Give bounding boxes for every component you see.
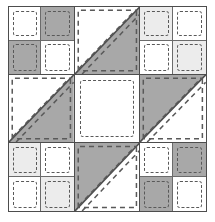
quilt-cell-top-left <box>9 7 75 75</box>
half-square-triangle-middle-right <box>140 75 206 142</box>
patch-top-right <box>41 143 73 177</box>
quilt-block-grid <box>8 6 207 212</box>
four-patch-bottom-left <box>9 143 74 211</box>
patch-top-right <box>41 7 73 41</box>
patch-top-right <box>173 7 206 41</box>
patch-top-right <box>173 143 206 177</box>
stitch-line <box>45 44 70 71</box>
patch-bottom-right <box>173 177 206 211</box>
half-square-triangle-bottom-center <box>75 143 140 211</box>
patch-top-left <box>9 7 41 41</box>
stitch-line <box>45 181 70 208</box>
stitch-line <box>13 44 37 71</box>
patch-bottom-right <box>173 41 206 75</box>
stitch-line <box>13 181 37 208</box>
stitch-line <box>13 11 37 37</box>
quilt-cell-middle-left <box>9 75 75 143</box>
triangle-shape-icon <box>140 75 206 142</box>
plain-square-center <box>75 75 140 142</box>
patch-bottom-right <box>41 41 73 75</box>
quilt-cell-top-center <box>75 7 141 75</box>
quilt-figure <box>0 0 215 222</box>
patch-bottom-left <box>9 41 41 75</box>
four-patch-top-left <box>9 7 74 74</box>
half-square-triangle-middle-left <box>9 75 74 142</box>
stitch-line <box>144 44 169 71</box>
quilt-cell-top-right <box>140 7 206 75</box>
triangle-shape-icon <box>75 143 140 211</box>
patch-bottom-left <box>140 41 173 75</box>
stitch-line <box>177 44 203 71</box>
triangle-shape-icon <box>9 75 74 142</box>
stitch-line <box>177 11 203 37</box>
stitch-line <box>177 181 203 208</box>
triangle-shape-icon <box>75 7 140 74</box>
patch-bottom-right <box>41 177 73 211</box>
stitch-line <box>13 147 37 173</box>
stitch-line <box>45 11 70 37</box>
patch-top-left <box>140 7 173 41</box>
quilt-cell-bottom-center <box>75 143 141 211</box>
quilt-cell-bottom-right <box>140 143 206 211</box>
half-square-triangle-top-center <box>75 7 140 74</box>
stitch-line <box>80 80 135 137</box>
four-patch-top-right <box>140 7 206 74</box>
quilt-cell-middle-right <box>140 75 206 143</box>
stitch-line <box>45 147 70 173</box>
stitch-line <box>144 11 169 37</box>
quilt-cell-bottom-left <box>9 143 75 211</box>
patch-bottom-left <box>9 177 41 211</box>
stitch-line <box>144 147 169 173</box>
patch-top-left <box>140 143 173 177</box>
patch-bottom-left <box>140 177 173 211</box>
stitch-line <box>177 147 203 173</box>
four-patch-bottom-right <box>140 143 206 211</box>
stitch-line <box>144 181 169 208</box>
patch-top-left <box>9 143 41 177</box>
quilt-cell-center <box>75 75 141 143</box>
